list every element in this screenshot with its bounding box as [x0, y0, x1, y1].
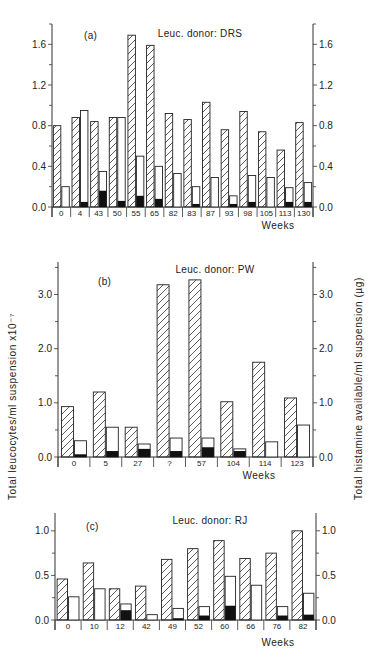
y-tick-left: 1.0 — [38, 397, 52, 408]
x-category-label: 65 — [150, 209, 159, 218]
y-tick-right: 1.2 — [319, 80, 333, 91]
bar-histamine-available — [211, 178, 218, 207]
y-tick-left: 1.2 — [32, 80, 46, 91]
bar-leucocytes — [93, 392, 105, 457]
x-category-label: 5 — [104, 459, 109, 468]
bar-histamine-released — [303, 615, 313, 620]
x-category-label: 55 — [131, 209, 140, 218]
x-category-label: 4 — [78, 209, 83, 218]
panel-title: Leuc. donor: PW — [176, 264, 255, 275]
bar-leucocytes — [165, 113, 172, 207]
bar-leucocytes — [258, 132, 265, 207]
x-category-label: 43 — [94, 209, 103, 218]
bar-leucocytes — [57, 579, 67, 620]
x-category-label: 57 — [197, 459, 206, 468]
left-axis-title: Total leucocytes/ml suspension x10⁻⁷ — [7, 313, 18, 500]
x-category-label: 105 — [260, 209, 274, 218]
panel-label: (b) — [98, 276, 111, 287]
bar-leucocytes — [125, 427, 137, 457]
panel-2: 0.00.00.50.51.01.00101242495260667682(c)… — [35, 513, 336, 648]
y-tick-right: 0.8 — [319, 120, 333, 131]
bar-histamine-released — [106, 451, 118, 457]
y-tick-right: 1.0 — [322, 525, 336, 536]
y-tick-right: 0.0 — [319, 202, 333, 213]
x-category-label: 10 — [90, 622, 99, 631]
x-category-label: 82 — [298, 622, 307, 631]
x-axis-title: Weeks — [262, 220, 295, 231]
y-tick-right: 0.5 — [322, 570, 336, 581]
bar-histamine-released — [170, 451, 182, 457]
panel-label: (c) — [86, 521, 99, 532]
x-category-label: 12 — [116, 622, 125, 631]
bar-histamine-available — [147, 615, 157, 620]
bar-histamine-released — [234, 451, 246, 457]
bar-histamine-released — [304, 202, 311, 207]
x-category-label: 76 — [272, 622, 281, 631]
bar-histamine-released — [118, 201, 125, 207]
y-tick-left: 3.0 — [38, 289, 52, 300]
bar-leucocytes — [189, 280, 201, 457]
bar-histamine-released — [138, 449, 150, 457]
bar-leucocytes — [109, 118, 116, 207]
bar-leucocytes — [83, 563, 93, 620]
x-category-label: 27 — [133, 459, 142, 468]
bar-leucocytes — [203, 102, 210, 207]
bar-leucocytes — [135, 586, 145, 620]
x-axis-title: Weeks — [262, 637, 295, 648]
y-tick-left: 2.0 — [38, 343, 52, 354]
x-axis-title: Weeks — [243, 470, 276, 481]
panel-1: 0.00.01.01.02.02.03.03.00527?57104114123… — [38, 262, 333, 481]
panel-title: Leuc. donor: RJ — [172, 515, 247, 526]
figure-canvas: 0.00.00.40.40.80.81.21.21.61.60443505565… — [0, 0, 372, 659]
bar-histamine-available — [267, 178, 274, 207]
y-tick-right: 1.6 — [319, 39, 333, 50]
y-tick-right: 3.0 — [319, 289, 333, 300]
bar-histamine-available — [69, 597, 79, 620]
bar-leucocytes — [61, 407, 73, 457]
y-tick-left: 0.0 — [32, 202, 46, 213]
bar-leucocytes — [157, 285, 169, 457]
bar-leucocytes — [53, 126, 60, 207]
bar-leucocytes — [162, 559, 172, 620]
x-category-label: 104 — [227, 459, 241, 468]
bar-histamine-released — [248, 202, 255, 207]
bar-leucocytes — [285, 398, 297, 457]
bar-leucocytes — [240, 111, 247, 207]
bar-histamine-available — [174, 173, 181, 207]
bar-histamine-released — [173, 618, 183, 620]
bar-histamine-released — [155, 199, 162, 207]
x-category-label: 0 — [59, 209, 64, 218]
y-tick-right: 0.0 — [319, 452, 333, 463]
x-category-label: 123 — [290, 459, 304, 468]
bar-leucocytes — [214, 541, 224, 620]
bar-histamine-released — [136, 196, 143, 207]
x-category-label: 49 — [168, 622, 177, 631]
y-tick-left: 0.5 — [35, 570, 49, 581]
y-tick-left: 0.0 — [38, 452, 52, 463]
bar-leucocytes — [128, 35, 135, 207]
x-category-label: 0 — [72, 459, 77, 468]
bar-histamine-released — [192, 204, 199, 207]
bar-histamine-released — [99, 191, 106, 207]
bar-histamine-available — [266, 442, 278, 457]
y-tick-right: 2.0 — [319, 343, 333, 354]
bar-histamine-released — [230, 204, 237, 207]
right-axis-title: Total histamine available/ml suspension … — [353, 277, 364, 500]
x-category-label: 0 — [66, 622, 71, 631]
x-category-label: 87 — [206, 209, 215, 218]
bar-leucocytes — [292, 531, 302, 620]
bar-leucocytes — [72, 118, 79, 207]
y-tick-left: 1.6 — [32, 39, 46, 50]
x-category-label: 60 — [220, 622, 229, 631]
y-tick-left: 0.4 — [32, 161, 46, 172]
x-category-label: ? — [167, 459, 172, 468]
bar-leucocytes — [221, 402, 233, 457]
x-category-label: 66 — [246, 622, 255, 631]
bar-leucocytes — [184, 120, 191, 207]
bar-histamine-released — [74, 454, 86, 457]
x-category-label: 42 — [142, 622, 151, 631]
bar-leucocytes — [296, 123, 303, 207]
x-category-label: 50 — [113, 209, 122, 218]
x-category-label: 98 — [243, 209, 252, 218]
panel-title: Leuc. donor: DRS — [158, 28, 242, 39]
